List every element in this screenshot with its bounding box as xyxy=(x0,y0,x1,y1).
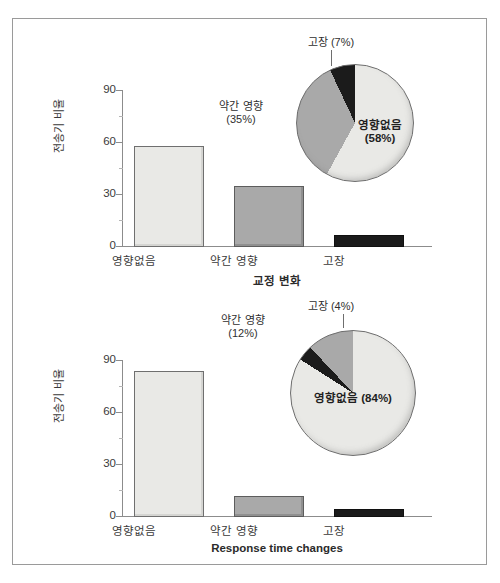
bar-slight-effect xyxy=(234,496,304,517)
x-category-failure: 고장 xyxy=(286,522,382,538)
y-tick-label-60: 60 xyxy=(82,406,116,417)
pie-leader-line-failure xyxy=(331,50,332,66)
y-tick-label-0: 0 xyxy=(82,240,116,251)
x-category-failure: 고장 xyxy=(286,252,382,268)
x-axis-title: 교정 변화 xyxy=(122,272,432,288)
pie-label-slight-line1: 약간 영향 xyxy=(204,100,278,113)
y-tick-label-30: 30 xyxy=(82,458,116,469)
bar-failure xyxy=(334,509,404,517)
y-tick-label-90: 90 xyxy=(82,354,116,365)
bar-no-effect xyxy=(134,146,204,247)
pie-label-slight-line2: (12%) xyxy=(204,327,282,340)
pie-slice-label-no-effect: 영향없음 (84%) xyxy=(296,392,410,405)
bar-slight-effect xyxy=(234,186,304,247)
x-category-no-effect: 영향없음 xyxy=(86,252,182,268)
pie-inset-response-time: 영향없음 (84%) xyxy=(290,330,416,456)
pie-inset-calibration: 영향없음 (58%) xyxy=(296,64,414,182)
pie-slice-label-failure: 고장 (4%) xyxy=(286,300,376,313)
bar-failure xyxy=(334,235,404,247)
y-tick-label-0: 0 xyxy=(82,510,116,521)
chart-response-time-changes: 90 60 30 0 전송기 비율 영향없음 약간 영향 고장 Response… xyxy=(18,292,478,557)
y-tick-label-90: 90 xyxy=(82,84,116,95)
pie-label-no-effect-line2: (58%) xyxy=(346,132,414,145)
pie-label-slight-line2: (35%) xyxy=(204,113,278,126)
y-tick-label-30: 30 xyxy=(82,188,116,199)
x-category-slight-effect: 약간 영향 xyxy=(186,252,282,268)
y-axis-title: 전송기 비율 xyxy=(50,336,66,456)
pie-slice-label-slight-effect: 약간 영향 (35%) xyxy=(204,100,278,126)
y-axis-title: 전송기 비율 xyxy=(50,66,66,186)
x-category-no-effect: 영향없음 xyxy=(86,522,182,538)
y-tick-label-60: 60 xyxy=(82,136,116,147)
figure-page: 90 60 30 0 전송기 비율 영향없음 약간 영향 고장 교정 변화 영향… xyxy=(0,0,500,583)
x-axis-title: Response time changes xyxy=(122,542,432,554)
pie-leader-line-failure xyxy=(343,314,344,328)
bar-no-effect xyxy=(134,371,204,517)
pie-label-slight-line1: 약간 영향 xyxy=(204,314,282,327)
pie-slice-label-failure: 고장 (7%) xyxy=(286,36,376,49)
pie-slice-label-no-effect: 영향없음 (58%) xyxy=(346,119,414,145)
x-category-slight-effect: 약간 영향 xyxy=(186,522,282,538)
pie-label-no-effect-line1: 영향없음 xyxy=(346,119,414,132)
chart-calibration-changes: 90 60 30 0 전송기 비율 영향없음 약간 영향 고장 교정 변화 영향… xyxy=(18,22,478,287)
pie-slice-label-slight-effect: 약간 영향 (12%) xyxy=(204,314,282,340)
